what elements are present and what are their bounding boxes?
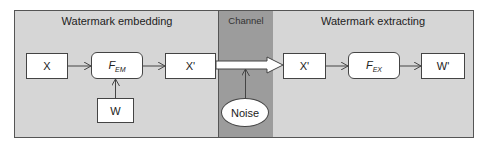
node-w-label: W [110, 105, 120, 117]
node-w: W [97, 98, 134, 123]
embedding-title: Watermark embedding [15, 15, 219, 27]
node-f-em-label: FEM [108, 59, 125, 73]
node-x-prime-label: X' [186, 60, 195, 72]
node-noise-label: Noise [231, 107, 259, 119]
node-w-prime: W' [421, 53, 465, 79]
node-x-prime-received: X' [283, 53, 326, 79]
node-w-prime-label: W' [437, 60, 449, 72]
node-x: X [26, 53, 68, 79]
node-noise: Noise [221, 98, 269, 127]
node-x-prime: X' [165, 53, 216, 79]
extracting-title: Watermark extracting [273, 15, 473, 27]
node-x-prime-received-label: X' [300, 60, 309, 72]
node-x-label: X [43, 60, 50, 72]
node-f-ex: FEX [348, 52, 400, 79]
node-f-ex-label: FEX [366, 59, 382, 73]
node-f-em: FEM [91, 52, 143, 79]
channel-title: Channel [219, 15, 273, 26]
